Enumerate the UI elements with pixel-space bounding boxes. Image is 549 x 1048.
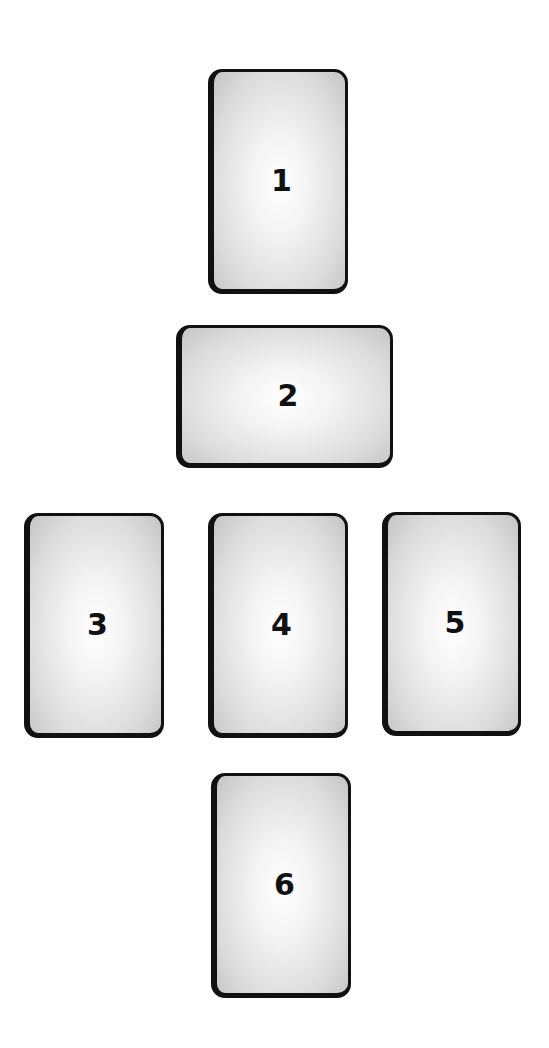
card-position-6[interactable]: 6 (211, 773, 351, 998)
card-number-label: 4 (271, 610, 292, 640)
card-spread: 1 2 3 4 5 6 (0, 0, 549, 1048)
card-position-4[interactable]: 4 (208, 513, 348, 738)
card-number-label: 1 (271, 166, 292, 196)
card-position-1[interactable]: 1 (208, 69, 348, 294)
card-position-5[interactable]: 5 (382, 512, 521, 736)
card-number-label: 6 (274, 870, 295, 900)
card-number-label: 5 (445, 608, 466, 638)
card-number-label: 2 (278, 381, 299, 411)
card-position-2[interactable]: 2 (176, 325, 393, 468)
card-position-3[interactable]: 3 (24, 513, 164, 738)
card-number-label: 3 (87, 610, 108, 640)
